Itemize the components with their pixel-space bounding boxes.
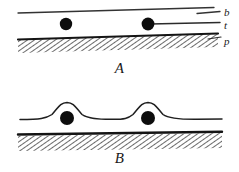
label-p: p [224,35,230,47]
membrane-line-b [18,8,214,14]
panel-b-caption: B [0,150,239,167]
particle-b-2 [141,111,155,125]
label-b: b [224,6,230,18]
membrane-curve-b [20,102,222,119]
figure-root: b t p A [0,0,239,172]
label-t: t [224,19,227,31]
particle-a-1 [60,18,72,30]
leader-line-t [150,23,220,25]
leader-line-b [197,12,220,14]
particle-b-1 [60,111,74,125]
particle-a-2 [142,18,155,31]
panel-a-caption: A [0,60,239,77]
